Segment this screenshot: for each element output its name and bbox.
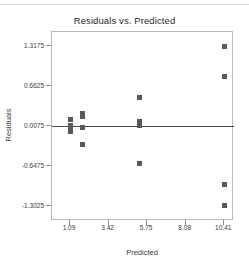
x-tick-label: 1.09 [63,224,76,231]
data-point [137,161,142,166]
y-tick-label: 0.6625 [0,82,44,89]
x-axis-title: Predicted [51,248,233,257]
x-tick-label: 8.08 [178,224,191,231]
data-point [68,129,73,134]
data-point [137,95,142,100]
data-point [68,117,73,122]
data-point [222,203,227,208]
data-point [80,114,85,119]
x-tick-label: 3.42 [101,224,114,231]
y-tick-mark [46,45,51,46]
data-point [222,74,227,79]
data-point [137,123,142,128]
y-tick-mark [46,205,51,206]
y-tick-label: 0.0075 [0,122,44,129]
chart-app: Residuals vs. Predicted Residuals 1.3175… [0,0,249,266]
plot-area [51,31,233,220]
x-tick-label: 5.75 [140,224,153,231]
data-point [222,44,227,49]
y-tick-mark [46,125,51,126]
y-tick-mark [46,85,51,86]
data-point [80,142,85,147]
data-point [222,182,227,187]
y-tick-mark [46,165,51,166]
x-tick-label: 10.41 [215,224,231,231]
data-point [80,125,85,130]
y-tick-label: -0.6475 [0,161,44,168]
y-tick-label: 1.3175 [0,42,44,49]
y-tick-label: -1.3025 [0,201,44,208]
